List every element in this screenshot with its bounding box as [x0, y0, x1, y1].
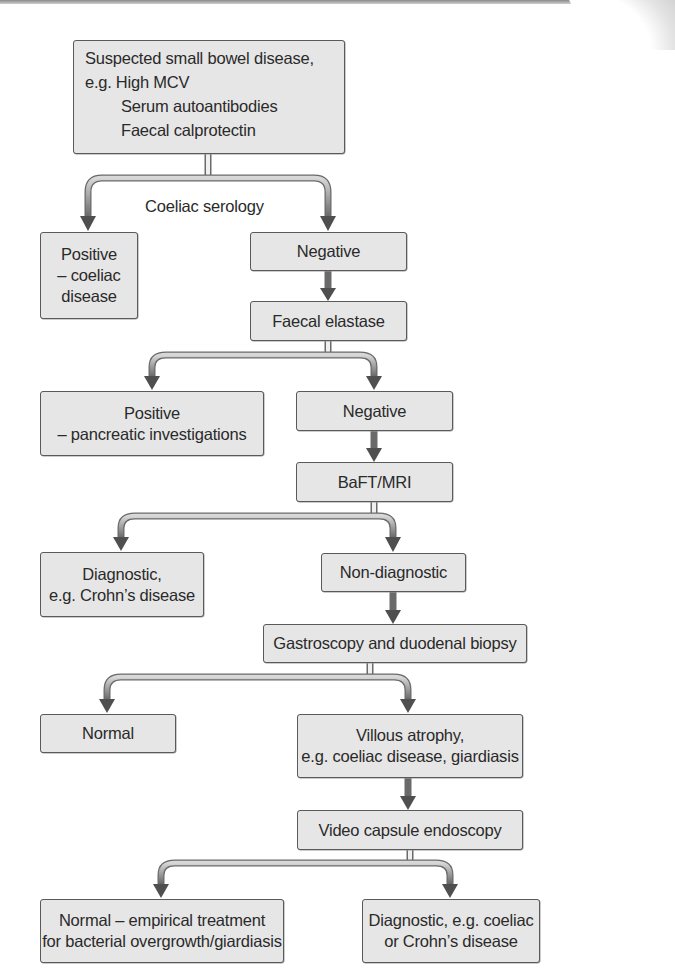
node-text-line: BaFT/MRI [338, 472, 412, 493]
node-normal-empirical-treatment: Normal – empirical treatment for bacteri… [40, 899, 284, 963]
start-node-suspected-small-bowel-disease: Suspected small bowel disease, e.g.High … [73, 40, 345, 154]
node-text-line: for bacterial overgrowth/giardiasis [42, 931, 282, 952]
node-faecal-elastase: Faecal elastase [250, 301, 407, 341]
start-example-row: e.g.High MCV [85, 70, 189, 94]
node-diagnostic-crohns: Diagnostic, e.g. Crohn’s disease [40, 552, 204, 617]
node-text-line: Negative [297, 241, 361, 262]
connector-split-faecal-elastase [144, 340, 382, 390]
node-diagnostic-coeliac-or-crohns: Diagnostic, e.g. coeliac or Crohn’s dise… [362, 899, 540, 963]
start-title: Suspected small bowel disease, [85, 46, 314, 70]
node-normal: Normal [40, 714, 176, 753]
node-text-line: Diagnostic, e.g. coeliac [369, 910, 534, 931]
node-text-line: disease [61, 286, 116, 307]
connector-negative1-to-faecal [320, 270, 336, 301]
node-non-diagnostic: Non-diagnostic [321, 553, 466, 592]
node-baft-mri: BaFT/MRI [296, 462, 453, 502]
node-positive-pancreatic: Positive – pancreatic investigations [40, 391, 264, 456]
start-example-serum-autoantibodies: Serum autoantibodies [85, 94, 278, 118]
node-text-line: Positive [124, 403, 180, 424]
connector-nondiag-to-gastroscopy [385, 591, 401, 624]
node-text-line: Non-diagnostic [340, 562, 447, 583]
start-example-faecal-calprotectin: Faecal calprotectin [85, 118, 256, 142]
connector-split-baft-mri [113, 501, 401, 552]
node-text-line: Diagnostic, [82, 564, 161, 585]
connector-split-coeliac-serology [80, 153, 336, 231]
node-text-line: Negative [343, 401, 407, 422]
node-negative-faecal-elastase: Negative [296, 391, 453, 431]
node-text-line: e.g. Crohn’s disease [49, 585, 195, 606]
node-text-line: Normal [82, 723, 134, 744]
connector-negative2-to-baft [366, 430, 382, 462]
node-text-line: or Crohn’s disease [384, 931, 518, 952]
node-gastroscopy-duodenal-biopsy: Gastroscopy and duodenal biopsy [263, 624, 527, 663]
node-text-line: Positive [61, 244, 117, 265]
connector-villous-to-capsule [400, 777, 416, 810]
connector-split-video-capsule [153, 849, 458, 898]
start-example-high-mcv: High MCV [116, 73, 190, 91]
start-eg-prefix: e.g. [85, 73, 112, 91]
node-text-line: Faecal elastase [272, 311, 385, 332]
node-text-line: – pancreatic investigations [57, 424, 246, 445]
node-text-line: Gastroscopy and duodenal biopsy [273, 633, 516, 654]
connector-split-gastroscopy [99, 662, 416, 713]
node-villous-atrophy: Villous atrophy, e.g. coeliac disease, g… [297, 714, 523, 778]
edge-label-coeliac-serology: Coeliac serology [145, 197, 264, 216]
node-text-line: – coeliac [57, 265, 120, 286]
node-text-line: e.g. coeliac disease, giardiasis [301, 746, 518, 767]
node-video-capsule-endoscopy: Video capsule endoscopy [297, 810, 523, 850]
node-text-line: Video capsule endoscopy [318, 820, 501, 841]
node-positive-coeliac: Positive – coeliac disease [40, 232, 138, 319]
node-negative-coeliac-serology: Negative [250, 232, 407, 271]
node-text-line: Normal – empirical treatment [59, 910, 265, 931]
node-text-line: Villous atrophy, [356, 725, 464, 746]
